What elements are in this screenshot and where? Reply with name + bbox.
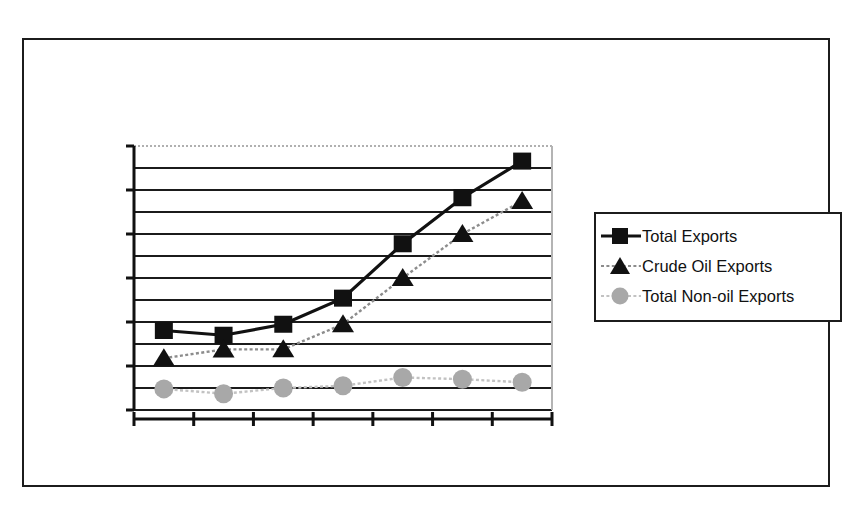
circle-marker-icon: [600, 285, 642, 307]
data-point-marker: [513, 153, 531, 170]
data-point-marker: [274, 379, 293, 398]
data-point-marker: [511, 191, 533, 209]
legend-item[interactable]: Total Non-oil Exports: [600, 281, 831, 311]
triangle-marker-icon: [600, 255, 642, 277]
chart-frame: Sudanese Exports, 2000-2006 Source: Cent…: [22, 38, 830, 487]
data-point-marker: [155, 322, 173, 339]
series-line: [164, 161, 522, 335]
data-point-marker: [272, 339, 294, 357]
data-point-marker: [453, 370, 472, 389]
data-point-marker: [274, 316, 292, 333]
square-marker-icon: [600, 225, 642, 247]
data-point-marker: [393, 368, 412, 387]
legend-item-label: Crude Oil Exports: [642, 257, 772, 276]
legend-item[interactable]: Crude Oil Exports: [600, 251, 831, 281]
legend-item-label: Total Exports: [642, 227, 737, 246]
data-point-marker: [154, 379, 173, 398]
data-point-marker: [214, 384, 233, 403]
data-point-marker: [513, 373, 532, 392]
chart-legend: Total ExportsCrude Oil ExportsTotal Non-…: [594, 212, 842, 322]
data-point-marker: [334, 290, 352, 307]
data-point-marker: [394, 235, 412, 252]
plot-area: [24, 40, 562, 446]
data-point-marker: [334, 376, 353, 395]
legend-item-label: Total Non-oil Exports: [642, 287, 794, 306]
data-point-marker: [453, 189, 471, 206]
legend-item[interactable]: Total Exports: [600, 221, 831, 251]
